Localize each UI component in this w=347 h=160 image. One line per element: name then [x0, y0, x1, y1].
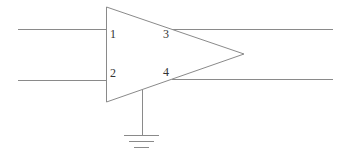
- amplifier-triangle: [107, 7, 245, 102]
- ground-icon: [124, 136, 159, 148]
- pin-label-1: 1: [110, 27, 116, 41]
- pin-label-3: 3: [163, 27, 169, 41]
- amplifier-diagram: 1 2 3 4: [0, 0, 347, 160]
- pin-label-4: 4: [163, 65, 169, 79]
- pin-label-2: 2: [110, 66, 116, 80]
